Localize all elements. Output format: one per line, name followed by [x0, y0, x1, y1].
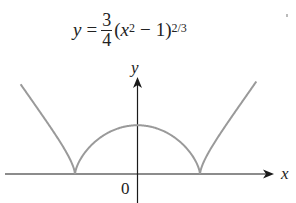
plot-area	[0, 0, 296, 203]
origin-label: 0	[121, 179, 130, 199]
function-curve	[21, 82, 257, 175]
x-axis-label: x	[281, 164, 289, 184]
y-axis-label: y	[131, 58, 139, 78]
